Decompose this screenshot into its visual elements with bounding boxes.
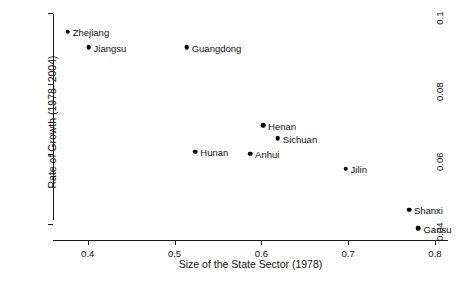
data-point-label: Anhui xyxy=(255,149,279,160)
data-point-label: Shanxi xyxy=(414,205,443,216)
x-axis-line xyxy=(53,240,448,241)
y-axis-title: Rate of Growth (1978–2004) xyxy=(46,22,58,222)
x-tick-mark xyxy=(435,240,436,245)
data-point xyxy=(416,226,421,231)
data-point xyxy=(261,123,266,128)
data-point-label: Zhejiang xyxy=(73,27,109,38)
data-point xyxy=(193,149,198,154)
y-tick-label: 0.06 xyxy=(434,152,445,171)
x-axis-title: Size of the State Sector (1978) xyxy=(53,258,448,270)
data-point xyxy=(276,136,281,141)
data-point-label: Sichuan xyxy=(283,133,317,144)
data-point-label: Jiangsu xyxy=(94,42,127,53)
x-tick-mark xyxy=(261,240,262,245)
y-tick-mark xyxy=(48,13,53,14)
plot-area: 0.040.060.080.1 0.40.50.60.70.8 Zhejiang… xyxy=(53,8,448,240)
data-point xyxy=(184,45,189,50)
x-tick-mark xyxy=(88,240,89,245)
data-point xyxy=(407,207,412,212)
y-tick-mark xyxy=(48,224,53,225)
data-point-label: Hunan xyxy=(200,147,228,158)
y-tick-label: 0.08 xyxy=(434,82,445,101)
scatter-plot-figure: 0.040.060.080.1 0.40.50.60.70.8 Zhejiang… xyxy=(0,0,456,286)
y-tick-label: 0.1 xyxy=(434,12,445,25)
x-tick-mark xyxy=(175,240,176,245)
data-point-label: Henan xyxy=(268,120,296,131)
data-point xyxy=(343,166,348,171)
x-tick-mark xyxy=(348,240,349,245)
data-point xyxy=(248,152,253,157)
data-point xyxy=(86,45,91,50)
data-point xyxy=(65,29,70,34)
data-point-label: Gansu xyxy=(423,223,451,234)
data-point-label: Jilin xyxy=(351,164,367,175)
data-point-label: Guangdong xyxy=(192,42,242,53)
